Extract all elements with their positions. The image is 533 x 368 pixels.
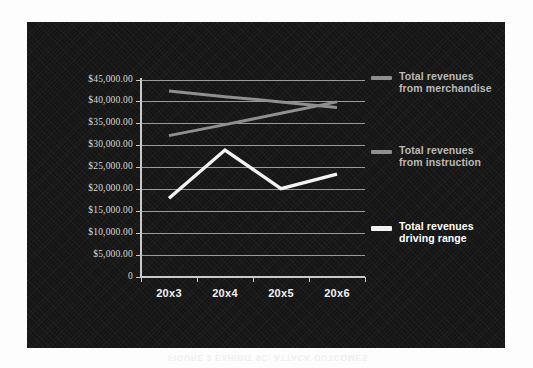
legend-label: Total revenues from merchandise [399, 70, 505, 95]
y-axis-label: $20,000.00 [47, 183, 133, 193]
bleed-through-caption: FIGURE 2 EXHIBIT 9C: ATTACK OUTCOMES [118, 349, 418, 363]
y-axis-label: 0 [47, 271, 133, 281]
legend-swatch-icon [371, 150, 392, 154]
legend-label: Total revenues driving range [399, 220, 505, 245]
y-axis-labels: 0$5,000.00$10,000.00$15,000.00$20,000.00… [47, 22, 133, 348]
y-axis-label: $45,000.00 [47, 74, 133, 84]
y-axis-label: $35,000.00 [47, 117, 133, 127]
x-axis-label-20x3: 20x3 [141, 287, 197, 299]
x-axis-label-20x4: 20x4 [197, 287, 253, 299]
y-axis-label: $25,000.00 [47, 161, 133, 171]
legend-item-1: Total revenues from merchandise [371, 70, 505, 95]
y-axis-label: $40,000.00 [47, 95, 133, 105]
data-series-group [169, 91, 337, 198]
legend-label: Total revenues from instruction [399, 144, 505, 169]
x-axis-label-20x5: 20x5 [253, 287, 309, 299]
legend-item-2: Total revenues from instruction [371, 144, 505, 169]
series-line-1 [169, 91, 337, 108]
y-axis-label: $30,000.00 [47, 139, 133, 149]
series-line-2 [169, 102, 337, 136]
y-axis-label: $10,000.00 [47, 227, 133, 237]
figure-page: 0$5,000.00$10,000.00$15,000.00$20,000.00… [0, 0, 533, 368]
chart-panel: 0$5,000.00$10,000.00$15,000.00$20,000.00… [27, 22, 505, 348]
x-axis-label-20x6: 20x6 [309, 287, 365, 299]
y-axis-label: $15,000.00 [47, 205, 133, 215]
legend-item-3: Total revenues driving range [371, 220, 505, 245]
legend-swatch-icon [371, 76, 392, 80]
series-line-3 [169, 150, 337, 198]
y-axis-label: $5,000.00 [47, 249, 133, 259]
legend-swatch-icon [371, 226, 392, 231]
